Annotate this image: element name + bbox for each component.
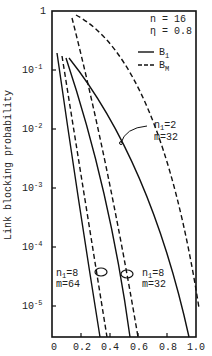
annotation-n1-2-m32: n1=2 m=32 (120, 120, 179, 145)
x-tick-label: 0.8 (159, 342, 177, 353)
x-tick-label: 0.2 (73, 342, 91, 353)
curve-b1-n1-2-m32 (69, 58, 189, 337)
x-tick-label: 0 (51, 342, 57, 353)
svg-text:m=64: m=64 (56, 279, 80, 290)
legend-b1: B1 (159, 47, 169, 60)
y-tick-label: 10-5 (22, 299, 42, 312)
legend-bm: BM (159, 60, 169, 73)
curve-bm-n1-8-m64 (62, 56, 107, 337)
x-tick-label: 1.0 (187, 342, 205, 353)
y-axis-label: Link blocking probability (3, 90, 14, 240)
y-tick-label: 10-1 (22, 63, 42, 76)
chart: 1 10-1 10-2 10-3 10-4 10-5 0 0.2 0.4 0.6… (0, 0, 212, 356)
x-tick-label: 0.6 (130, 342, 148, 353)
y-tick-label: 1 (40, 6, 46, 17)
y-tick-label: 10-4 (22, 240, 42, 253)
legend: B1 BM (138, 47, 169, 73)
curve-bm-n1-2-m32 (76, 15, 199, 308)
svg-text:n1=2: n1=2 (154, 120, 176, 132)
param-n: n = 16 (150, 14, 186, 25)
x-tick-label: 0.4 (101, 342, 119, 353)
svg-text:m=32: m=32 (154, 132, 178, 143)
svg-text:m=32: m=32 (142, 279, 166, 290)
y-tick-label: 10-2 (22, 122, 42, 135)
param-eta: η = 0.8 (150, 26, 192, 37)
y-tick-label: 10-3 (22, 181, 42, 194)
